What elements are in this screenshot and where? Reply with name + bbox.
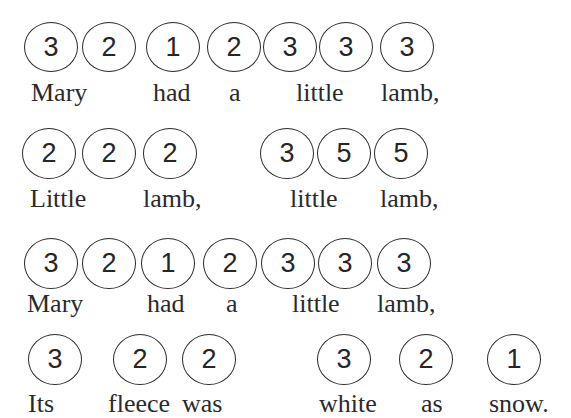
note-circle: 3 bbox=[263, 22, 317, 72]
note-circle: 3 bbox=[24, 22, 78, 72]
song-sheet: 3 2 1 2 3 3 3 Mary had a little lamb, 2 … bbox=[0, 0, 571, 418]
note-circle: 3 bbox=[28, 334, 82, 385]
lyric-word: little bbox=[290, 186, 338, 212]
lyric-word: Its bbox=[28, 391, 54, 417]
lyric-word: white bbox=[319, 391, 377, 417]
lyric-word: lamb, bbox=[143, 186, 202, 212]
lyric-word: little bbox=[296, 80, 344, 106]
lyric-word: lamb, bbox=[380, 186, 439, 212]
lyric-word: a bbox=[229, 80, 241, 106]
note-circle: 3 bbox=[261, 238, 315, 289]
lyric-word: little bbox=[292, 291, 340, 317]
note-circle: 2 bbox=[399, 334, 453, 385]
note-circle: 3 bbox=[319, 22, 373, 72]
note-circle: 3 bbox=[318, 238, 372, 289]
note-circle: 3 bbox=[24, 238, 78, 289]
note-circle: 3 bbox=[380, 22, 434, 72]
lyric-word: Mary bbox=[27, 291, 83, 317]
lyric-word: Mary bbox=[31, 80, 87, 106]
lyric-word: lamb, bbox=[377, 291, 436, 317]
note-circle: 2 bbox=[203, 238, 257, 289]
lyric-word: snow. bbox=[489, 391, 549, 417]
note-circle: 5 bbox=[374, 128, 428, 179]
note-circle: 1 bbox=[146, 22, 200, 72]
note-circle: 3 bbox=[260, 128, 314, 179]
lyric-word: had bbox=[153, 80, 191, 106]
note-circle: 2 bbox=[182, 334, 236, 385]
note-circle: 2 bbox=[82, 22, 136, 72]
lyric-word: Little bbox=[30, 186, 86, 212]
lyric-word: fleece bbox=[108, 391, 170, 417]
note-circle: 2 bbox=[113, 334, 167, 385]
note-circle: 2 bbox=[22, 128, 76, 179]
lyric-word: a bbox=[226, 291, 238, 317]
note-circle: 2 bbox=[82, 238, 136, 289]
lyric-word: had bbox=[147, 291, 185, 317]
lyric-word: was bbox=[182, 391, 222, 417]
note-circle: 1 bbox=[141, 238, 195, 289]
note-circle: 2 bbox=[207, 22, 261, 72]
note-circle: 5 bbox=[317, 128, 371, 179]
lyric-word: lamb, bbox=[381, 80, 440, 106]
note-circle: 3 bbox=[317, 334, 371, 385]
note-circle: 1 bbox=[487, 334, 541, 385]
note-circle: 3 bbox=[377, 238, 431, 289]
lyric-word: as bbox=[421, 391, 443, 417]
note-circle: 2 bbox=[82, 128, 136, 179]
note-circle: 2 bbox=[143, 128, 197, 179]
